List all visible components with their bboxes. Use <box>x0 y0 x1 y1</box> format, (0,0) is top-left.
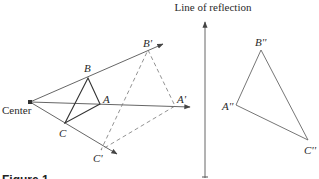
label-b-double-prime: B'' <box>255 36 267 48</box>
label-c: C <box>59 127 67 139</box>
transformation-diagram: Line of reflection Center B A C B' A' C'… <box>0 0 319 179</box>
figure-caption: Figure 1 <box>2 173 49 179</box>
label-c-prime: C' <box>93 152 103 164</box>
center-label: Center <box>2 104 32 116</box>
ray-through-c <box>30 102 117 154</box>
label-a-double-prime: A'' <box>221 100 234 112</box>
ray-through-b <box>30 44 163 102</box>
label-b-prime: B' <box>143 37 153 49</box>
reflected-triangle <box>236 50 308 140</box>
label-c-double-prime: C'' <box>304 144 317 156</box>
ray-through-a <box>30 102 190 107</box>
label-a: A <box>102 93 110 105</box>
label-a-prime: A' <box>176 93 187 105</box>
dilated-triangle <box>101 50 175 150</box>
title-line-of-reflection: Line of reflection <box>175 1 252 13</box>
label-b: B <box>84 62 91 74</box>
